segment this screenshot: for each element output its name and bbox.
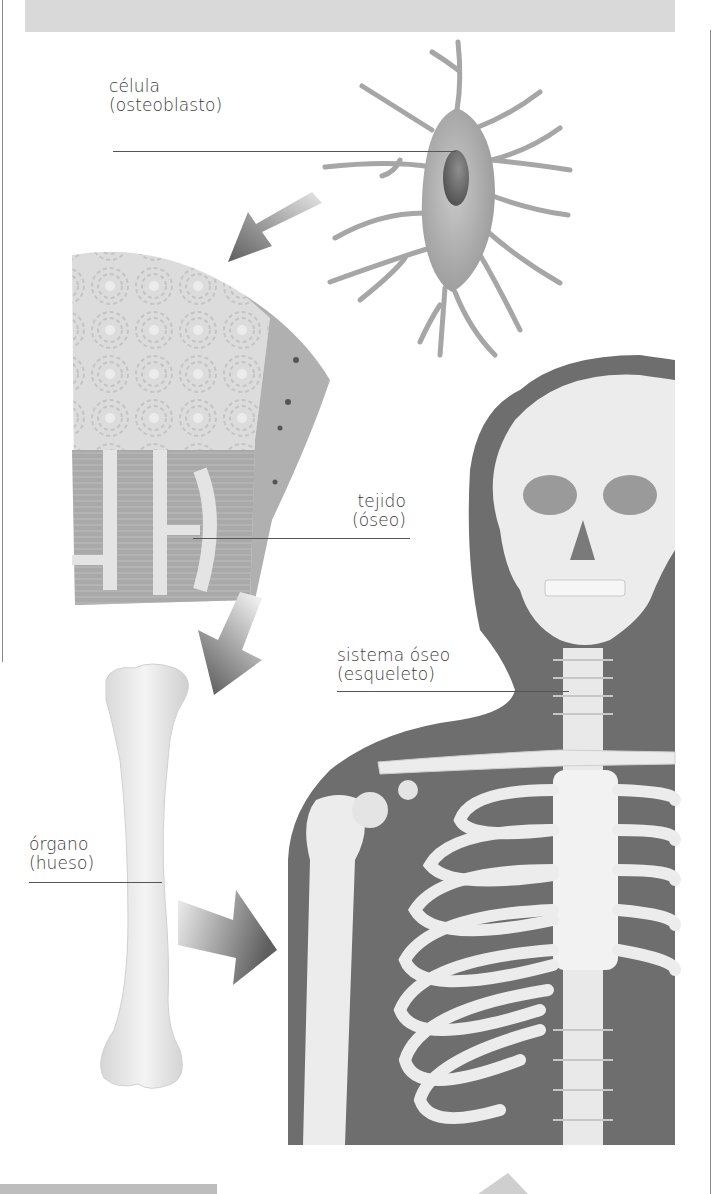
label-tissue: tejido (óseo): [352, 492, 406, 530]
sternum-icon: [553, 770, 618, 970]
cell-nucleus: [443, 150, 469, 206]
label-cell-name: célula: [109, 77, 222, 96]
label-system-name: sistema óseo: [337, 646, 450, 665]
arrow-organ-to-system-icon: [178, 890, 277, 985]
leader-line-tissue: [193, 538, 410, 539]
bone-tissue-block-icon: [72, 252, 330, 605]
label-cell-detail: (osteoblasto): [109, 96, 222, 115]
label-cell: célula (osteoblasto): [109, 77, 222, 115]
label-tissue-detail: (óseo): [352, 511, 406, 530]
leader-line-system: [337, 691, 569, 692]
bottom-banner: [0, 1184, 217, 1194]
label-tissue-name: tejido: [352, 492, 406, 511]
label-system: sistema óseo (esqueleto): [337, 646, 450, 684]
skeleton-system-icon: [288, 355, 675, 1145]
label-organ-detail: (hueso): [29, 854, 94, 873]
femur-bone-icon: [101, 664, 189, 1088]
label-organ: órgano (hueso): [29, 835, 94, 873]
label-system-detail: (esqueleto): [337, 665, 450, 684]
label-organ-name: órgano: [29, 835, 94, 854]
arrow-tissue-to-organ-icon: [198, 592, 262, 695]
leader-line-cell: [113, 151, 456, 152]
bottom-triangle-fragment: [478, 1173, 528, 1194]
leader-line-organ: [29, 882, 162, 883]
diagram-illustration: [0, 0, 712, 1194]
arrow-cell-to-tissue-icon: [228, 192, 322, 262]
